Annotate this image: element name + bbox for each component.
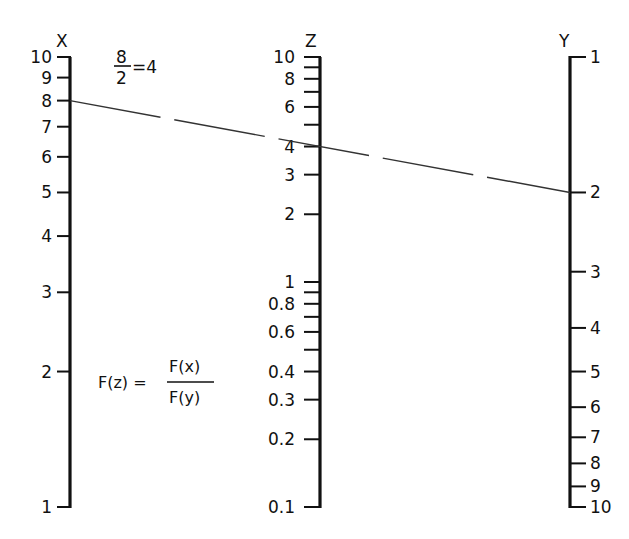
y-tick-label: 4 — [590, 318, 601, 338]
example-annotation: 8 2 =4 — [114, 47, 157, 88]
x-tick-label: 1 — [41, 497, 52, 517]
y-axis-name: Y — [558, 31, 570, 51]
z-tick-label: 0.4 — [268, 362, 295, 382]
z-axis-name: Z — [305, 31, 317, 51]
z-axis-ticks: 108643210.80.60.40.30.20.1 — [268, 47, 321, 517]
y-tick-label: 7 — [590, 427, 601, 447]
x-tick-label: 7 — [41, 117, 52, 137]
y-tick-label: 6 — [590, 397, 601, 417]
z-tick-label: 0.6 — [268, 322, 295, 342]
formula-lhs: F(z) = — [98, 373, 147, 392]
z-tick-label: 6 — [284, 97, 295, 117]
formula-numerator: F(x) — [169, 357, 200, 376]
y-tick-label: 1 — [590, 47, 601, 67]
y-tick-label: 2 — [590, 182, 601, 202]
y-tick-label: 9 — [590, 476, 601, 496]
x-tick-label: 9 — [41, 68, 52, 88]
y-tick-label: 5 — [590, 362, 601, 382]
y-tick-label: 8 — [590, 453, 601, 473]
nomogram-diagram: X Z Y 10987654321 108643210.80.60.40.30.… — [0, 0, 629, 539]
x-tick-label: 3 — [41, 282, 52, 302]
z-tick-label: 10 — [273, 47, 295, 67]
z-tick-label: 4 — [284, 137, 295, 157]
example-numerator: 8 — [116, 47, 127, 67]
y-axis-ticks: 12345678910 — [569, 47, 612, 517]
z-tick-label: 0.1 — [268, 497, 295, 517]
z-tick-label: 0.3 — [268, 390, 295, 410]
x-tick-label: 5 — [41, 182, 52, 202]
x-tick-label: 2 — [41, 362, 52, 382]
z-tick-label: 0.2 — [268, 429, 295, 449]
x-axis-ticks: 10987654321 — [30, 47, 71, 517]
z-tick-label: 0.8 — [268, 294, 295, 314]
z-tick-label: 3 — [284, 165, 295, 185]
y-tick-label: 3 — [590, 262, 601, 282]
x-tick-label: 10 — [30, 47, 52, 67]
example-result: =4 — [132, 57, 157, 77]
x-tick-label: 8 — [41, 91, 52, 111]
x-axis-name: X — [56, 31, 68, 51]
z-tick-label: 8 — [284, 69, 295, 89]
y-tick-label: 10 — [590, 497, 612, 517]
formula: F(z) = F(x) F(y) — [98, 357, 214, 407]
x-tick-label: 6 — [41, 147, 52, 167]
x-tick-label: 4 — [41, 226, 52, 246]
example-denominator: 2 — [116, 68, 127, 88]
formula-denominator: F(y) — [169, 388, 200, 407]
z-tick-label: 1 — [284, 272, 295, 292]
z-tick-label: 2 — [284, 204, 295, 224]
